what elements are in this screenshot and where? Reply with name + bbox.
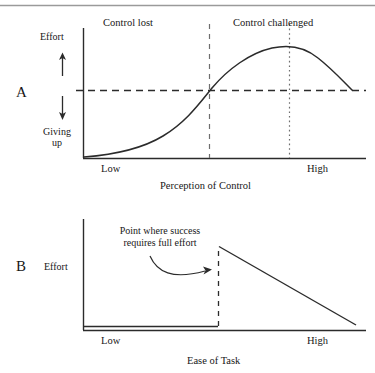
panel-a-xtick-high: High [307, 163, 328, 175]
panel-a-effort-curve [84, 46, 352, 157]
panel-a-y-axis-label-low: Giving up [36, 126, 78, 148]
panel-a-xtick-low: Low [101, 163, 120, 175]
panel-a-region-label-right: Control challenged [233, 17, 313, 29]
panel-b-xtick-high: High [307, 335, 328, 347]
panel-a-letter: A [16, 84, 27, 101]
panel-b-descending-segment [219, 247, 356, 326]
panel-b-x-axis-title: Ease of Task [187, 355, 240, 367]
panel-a-chart [59, 24, 366, 159]
curved-arrow-icon [150, 256, 212, 275]
figure-root: A Effort Giving up Control lost Control … [0, 0, 375, 373]
panel-a-y-axis-label: Effort [40, 31, 64, 42]
down-arrow-icon [59, 96, 66, 120]
panel-b-letter: B [16, 258, 27, 275]
panel-a-x-axis-title: Perception of Control [160, 180, 251, 192]
up-arrow-icon [59, 53, 66, 77]
panel-b-annotation: Point where success requires full effort [95, 225, 225, 249]
panel-a-region-label-left: Control lost [103, 17, 153, 29]
panel-b-xtick-low: Low [101, 335, 120, 347]
panel-b-y-axis-label: Effort [44, 261, 68, 272]
